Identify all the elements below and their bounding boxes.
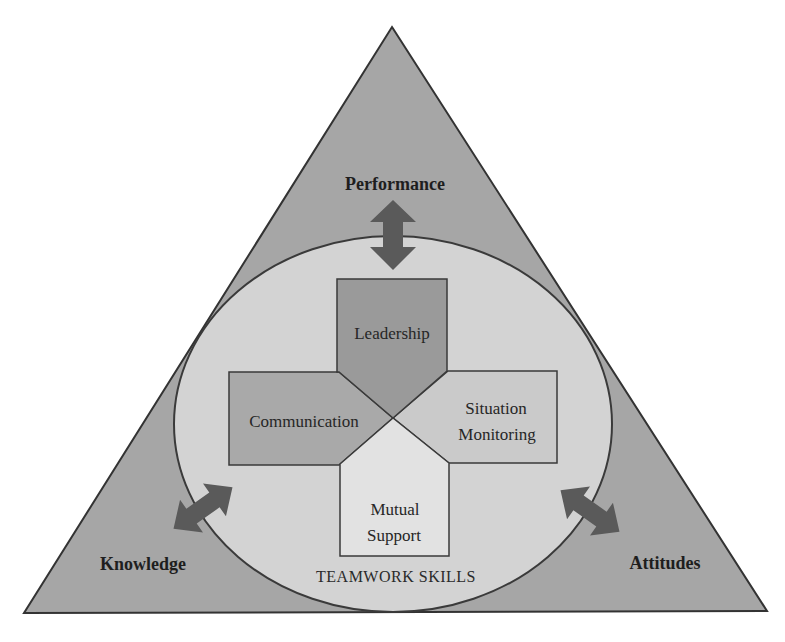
teamwork-skills-title: TEAMWORK SKILLS <box>316 568 476 585</box>
attitudes-label: Attitudes <box>630 553 701 573</box>
skill-situation-monitoring-label-line2: Monitoring <box>458 425 536 444</box>
knowledge-label: Knowledge <box>100 554 186 574</box>
performance-label: Performance <box>345 174 445 194</box>
skill-mutual-support-label-line1: Mutual <box>370 500 419 519</box>
teamwork-diagram: Performance Knowledge Attitudes Leadersh… <box>0 0 785 642</box>
skill-leadership-label: Leadership <box>354 324 430 343</box>
skill-mutual-support-label-line2: Support <box>367 526 421 545</box>
skill-communication-label: Communication <box>249 412 359 431</box>
skill-situation-monitoring-label-line1: Situation <box>465 399 527 418</box>
